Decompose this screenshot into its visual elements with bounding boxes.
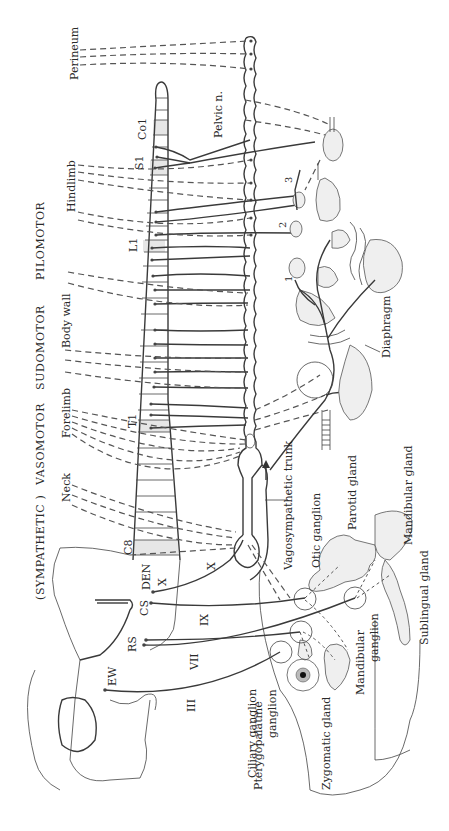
label-parotid-gland: Parotid gland — [346, 455, 359, 530]
label-pterygopalatine-ganglion-2: ganglion — [266, 690, 279, 738]
label-l1: L1 — [127, 238, 140, 252]
label-ciliary-ganglion: Ciliary ganglion — [246, 689, 259, 778]
label-forelimb: Forelimb — [60, 388, 73, 438]
label-diaphragm: Diaphragm — [380, 295, 393, 358]
label-ix: IX — [198, 614, 211, 626]
header-sudomotor: SUDOMOTOR — [34, 305, 47, 390]
label-rs: RS — [126, 636, 139, 652]
label-t1: T1 — [126, 414, 139, 428]
label-body-wall: Body wall — [60, 293, 73, 348]
label-x-outer: X — [205, 562, 218, 570]
header-vasomotor: VASOMOTOR — [34, 403, 47, 486]
label-zygomatic-gland: Zygomatic gland — [320, 697, 333, 790]
header-labels: (SYMPATHETIC ) VASOMOTOR SUDOMOTOR PILOM… — [34, 201, 47, 600]
thoracic-organs — [297, 345, 372, 450]
label-pelvic-nerve: Pelvic n. — [212, 91, 225, 138]
target-labels: Perineum Hindlimb Body wall Forelimb Nec… — [60, 26, 81, 502]
label-vagosympathetic-trunk: Vagosympathetic trunk — [282, 440, 295, 571]
brainstem-labels: DEN CS RS EW — [106, 563, 153, 686]
label-co1: Co1 — [136, 118, 149, 140]
spinal-cord — [133, 82, 180, 560]
header-sympathetic: (SYMPATHETIC ) — [34, 495, 47, 600]
label-s1: S1 — [133, 155, 146, 170]
label-ew: EW — [106, 666, 119, 686]
label-ganglion-2: 2 — [277, 222, 288, 228]
label-iii: III — [185, 699, 198, 712]
sympathetic-chain — [234, 37, 270, 580]
label-hindlimb: Hindlimb — [65, 160, 78, 212]
label-ganglion-1: 1 — [283, 276, 294, 282]
spinal-segment-labels: Co1 S1 L1 T1 C8 — [122, 118, 149, 555]
label-den: DEN — [140, 563, 153, 590]
label-mandibular-gland: Mandibular gland — [402, 445, 415, 545]
label-sublingual-gland: Sublingual gland — [418, 550, 431, 645]
label-neck: Neck — [60, 473, 73, 502]
label-cs: CS — [138, 600, 151, 616]
label-vii: VII — [188, 653, 201, 671]
label-mandibular-ganglion-2: ganglion — [368, 614, 381, 662]
header-pilomotor: PILOMOTOR — [34, 201, 47, 280]
autonomic-nervous-system-diagram: (SYMPATHETIC ) VASOMOTOR SUDOMOTOR PILOM… — [0, 0, 449, 831]
label-perineum: Perineum — [68, 26, 81, 80]
label-ganglion-3: 3 — [283, 177, 294, 183]
label-x-inner: X — [156, 578, 169, 586]
label-otic-ganglion: Otic ganglion — [310, 493, 323, 568]
label-c8: C8 — [122, 540, 135, 555]
label-mandibular-ganglion-1: Mandibular — [354, 629, 367, 695]
